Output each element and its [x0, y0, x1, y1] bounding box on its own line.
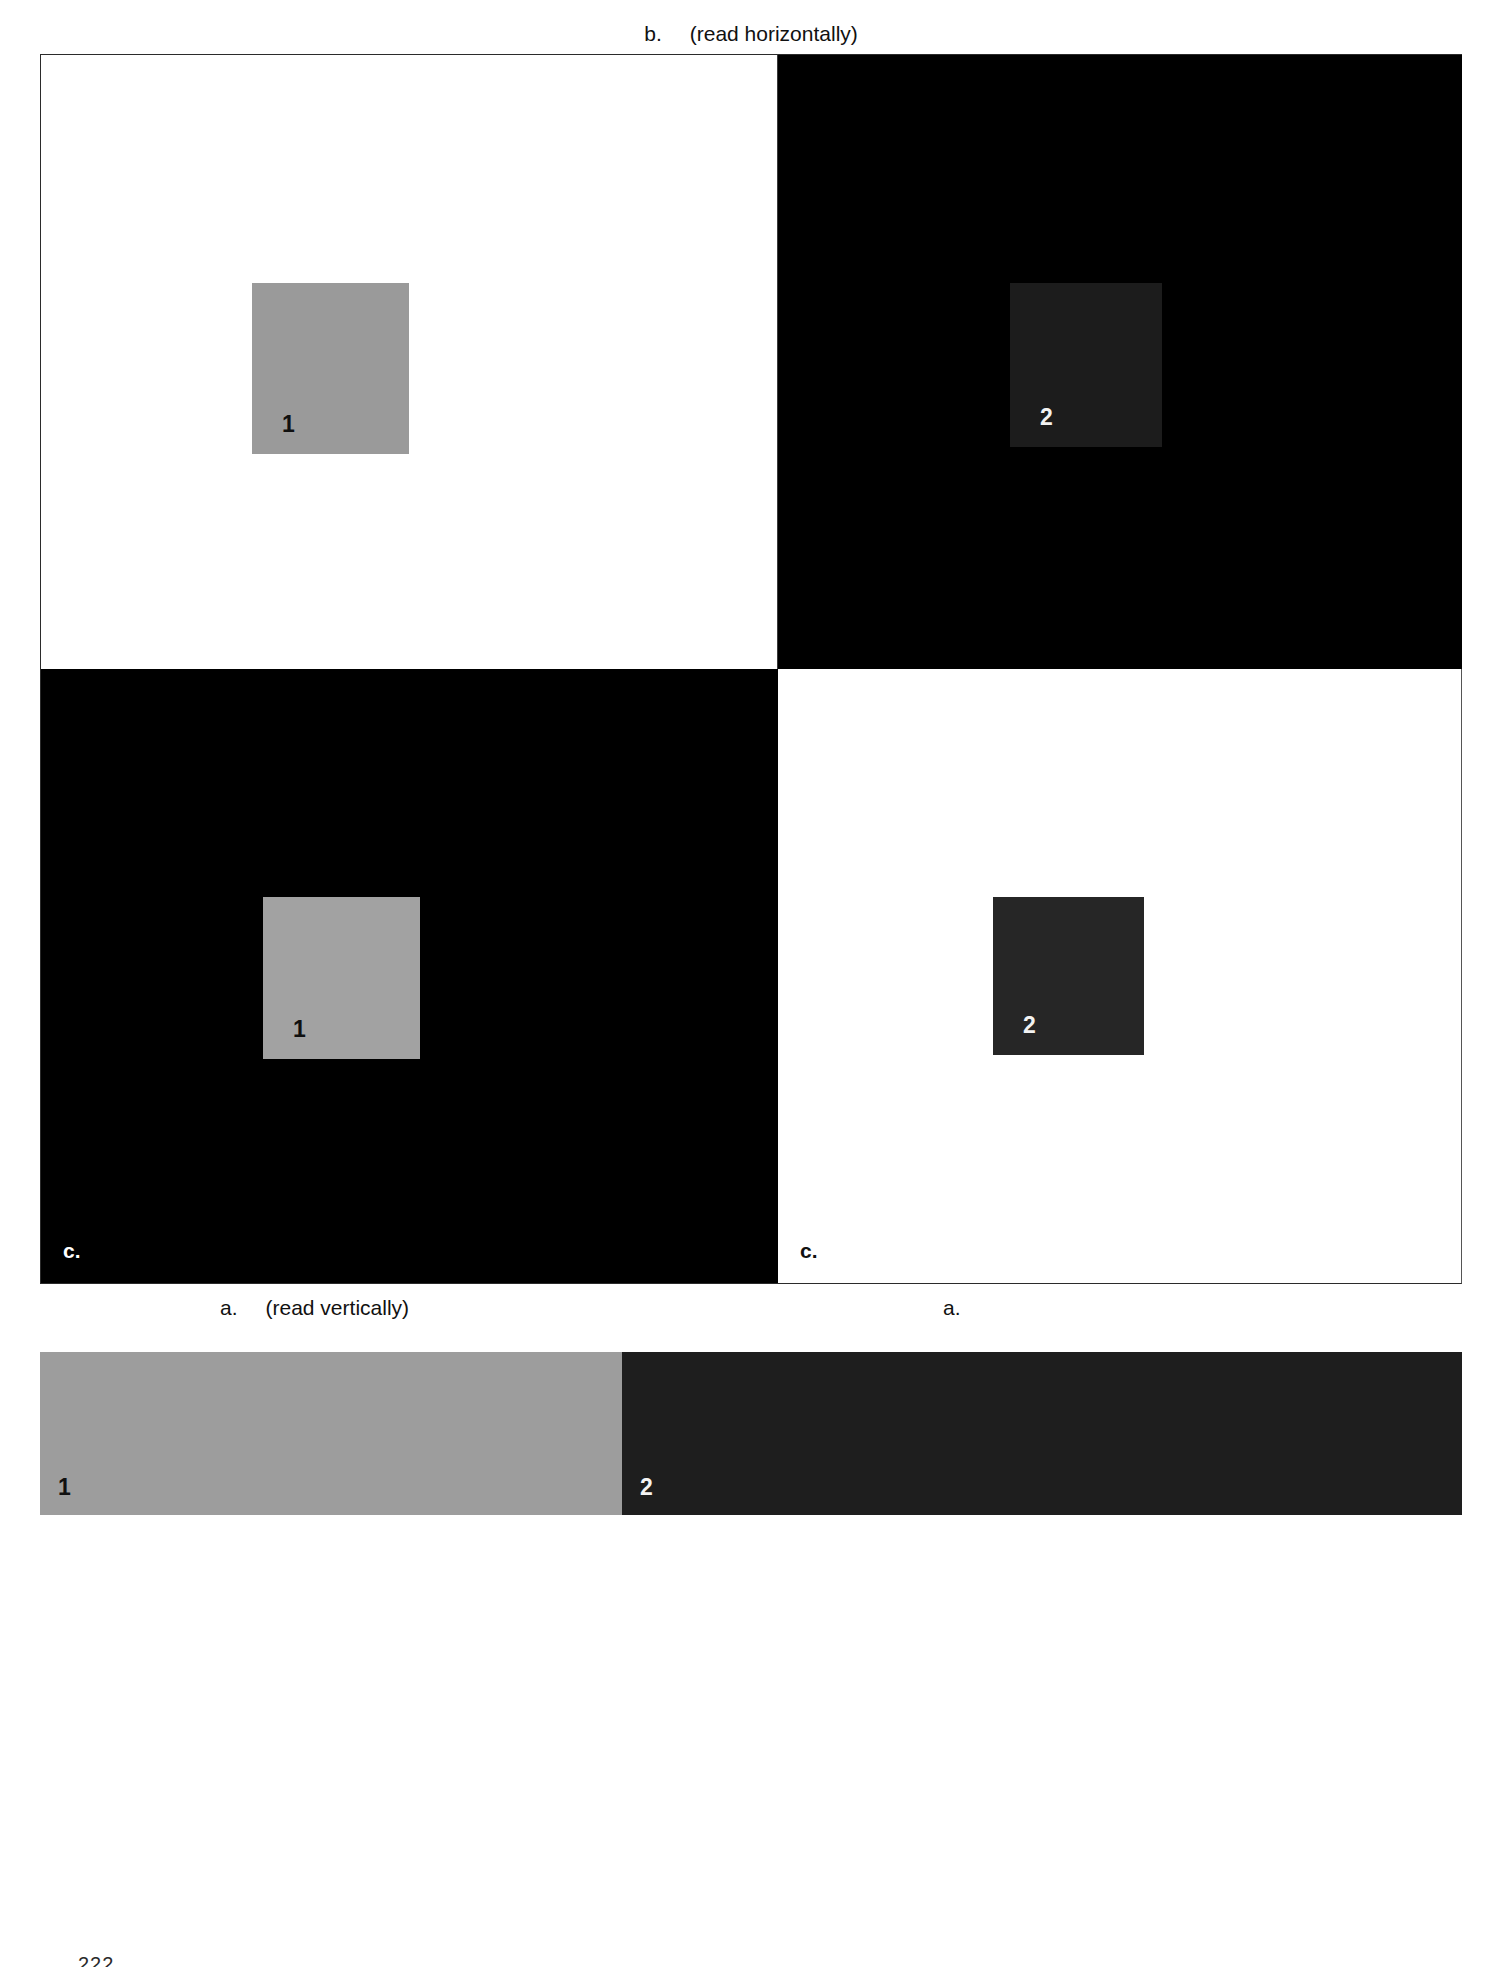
top-caption-text: (read horizontally)	[690, 22, 858, 46]
strip-swatch-right: 2	[622, 1352, 1462, 1515]
bottom-caption-left-letter: a.	[220, 1296, 238, 1320]
strip-swatch-left: 1	[40, 1352, 622, 1515]
swatch-label-top-right: 2	[1010, 406, 1053, 447]
swatch-bottom-left: 1	[263, 897, 420, 1059]
bottom-caption-row: a. (read vertically) a.	[40, 1296, 1462, 1336]
swatch-bottom-right: 2	[993, 897, 1144, 1055]
panel-top-left: 1	[40, 54, 778, 669]
strip-label-right: 2	[622, 1476, 653, 1515]
top-caption: b. (read horizontally)	[0, 18, 1502, 50]
top-caption-letter: b.	[644, 22, 662, 46]
strip-label-left: 1	[40, 1476, 71, 1515]
swatch-label-bottom-left: 1	[263, 1018, 306, 1059]
swatch-top-left: 1	[252, 283, 409, 454]
page-folio: 222	[78, 1953, 114, 1967]
swatch-top-right: 2	[1010, 283, 1162, 447]
panel-corner-label-bottom-right: c.	[800, 1240, 818, 1261]
bottom-caption-right: a.	[943, 1296, 989, 1320]
panel-grid: 1 2 1 c. 2 c.	[40, 54, 1462, 1284]
comparison-strip: 1 2	[40, 1352, 1462, 1515]
swatch-label-bottom-right: 2	[993, 1014, 1036, 1055]
swatch-label-top-left: 1	[252, 413, 295, 454]
panel-top-right: 2	[778, 54, 1462, 669]
bottom-caption-left: a. (read vertically)	[220, 1296, 409, 1320]
panel-corner-label-bottom-left: c.	[63, 1240, 81, 1261]
panel-bottom-right: 2 c.	[778, 669, 1462, 1284]
figure-page: b. (read horizontally) 1 2 1 c. 2	[0, 0, 1502, 1969]
bottom-caption-right-letter: a.	[943, 1296, 961, 1320]
panel-bottom-left: 1 c.	[40, 669, 778, 1284]
bottom-caption-left-text: (read vertically)	[266, 1296, 410, 1320]
